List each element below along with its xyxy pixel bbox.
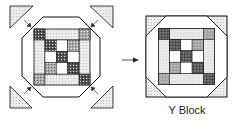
assembled-block xyxy=(146,16,227,97)
block-caption: Y Block xyxy=(146,104,228,116)
arrow-right-icon xyxy=(122,58,139,63)
corner-triangle-br xyxy=(91,86,113,108)
unassembled-block xyxy=(10,6,113,108)
